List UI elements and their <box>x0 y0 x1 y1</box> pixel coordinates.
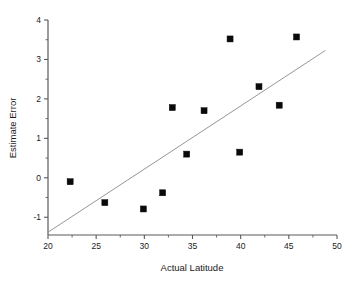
scatter-chart: -101234 20253035404550 Actual Latitude E… <box>0 0 357 285</box>
data-point <box>256 84 262 90</box>
y-tick-label: 4 <box>36 15 41 25</box>
x-axis-title: Actual Latitude <box>161 262 224 273</box>
regression-line <box>48 50 325 232</box>
x-axis-tick-labels: 20253035404550 <box>43 241 342 251</box>
x-tick-label: 30 <box>140 241 150 251</box>
data-point <box>276 102 282 108</box>
plot-area: -101234 20253035404550 Actual Latitude E… <box>0 0 357 285</box>
x-tick-label: 35 <box>188 241 198 251</box>
data-point <box>160 190 166 196</box>
data-point <box>184 151 190 157</box>
y-tick-label: -1 <box>33 212 41 222</box>
y-axis-tick-labels: -101234 <box>33 15 41 222</box>
x-tick-label: 45 <box>284 241 294 251</box>
x-tick-label: 40 <box>236 241 246 251</box>
y-tick-label: 3 <box>36 54 41 64</box>
y-tick-label: 0 <box>36 173 41 183</box>
y-tick-label: 2 <box>36 94 41 104</box>
data-points <box>67 34 299 212</box>
data-point <box>227 36 233 42</box>
data-point <box>169 105 175 111</box>
x-tick-label: 20 <box>43 241 53 251</box>
y-tick-label: 1 <box>36 133 41 143</box>
x-tick-label: 25 <box>91 241 101 251</box>
x-tick-label: 50 <box>332 241 342 251</box>
y-axis-title: Estimate Error <box>7 98 18 159</box>
data-point <box>140 206 146 212</box>
x-axis-ticks <box>48 235 337 239</box>
data-point <box>102 200 108 206</box>
data-point <box>201 108 207 114</box>
data-point <box>237 149 243 155</box>
data-point <box>67 179 73 185</box>
data-point <box>294 34 300 40</box>
